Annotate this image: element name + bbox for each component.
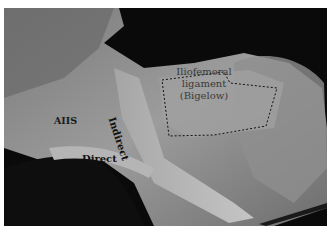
label-aiis: AIIS: [54, 116, 77, 126]
label-iliofemoral-ligament: Iliofemoral ligament (Bigelow): [164, 66, 244, 102]
label-direct-head: Direct: [82, 154, 117, 164]
anatomy-illustration: [4, 8, 327, 226]
ligament-line-2: ligament: [164, 78, 244, 90]
dissection-photo: AIIS Direct Indirect Iliofemoral ligamen…: [4, 8, 327, 226]
ligament-line-3: (Bigelow): [164, 90, 244, 102]
ligament-line-1: Iliofemoral: [164, 66, 244, 78]
